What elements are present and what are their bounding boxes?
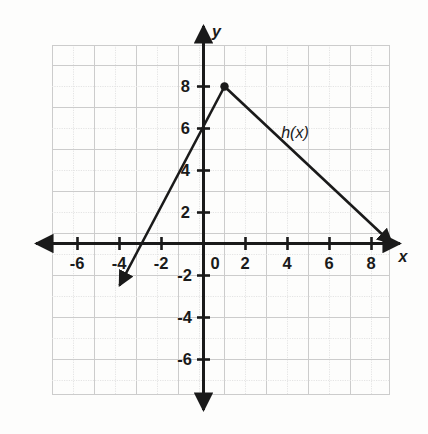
y-tick-label-6: 6 [181, 119, 190, 137]
x-axis-name: x [398, 248, 409, 265]
x-tick-label-8: 8 [366, 254, 375, 272]
curve-label-hx: h(x) [281, 124, 309, 141]
vertex-point-marker [220, 82, 228, 90]
y-axis [197, 26, 210, 410]
x-tick-label-6: 6 [324, 254, 333, 272]
x-tick-label-2: 2 [240, 254, 249, 272]
graph-figure: -6 -4 -2 0 2 4 6 8 8 6 4 2 -2 -4 -6 y x … [0, 0, 428, 434]
x-tick-label-4: 4 [282, 254, 292, 272]
x-tick-label--4: -4 [112, 254, 127, 272]
y-tick-label--4: -4 [177, 308, 192, 326]
x-tick-label--2: -2 [154, 254, 169, 272]
grid-lines [52, 45, 390, 395]
y-tick-label-2: 2 [181, 203, 190, 221]
x-tick-label--6: -6 [70, 254, 85, 272]
x-axis [36, 237, 400, 250]
x-tick-label-0: 0 [210, 254, 219, 272]
y-tick-label--2: -2 [177, 266, 192, 284]
coordinate-plane: -6 -4 -2 0 2 4 6 8 8 6 4 2 -2 -4 -6 y x … [0, 0, 428, 434]
y-tick-label-8: 8 [181, 77, 190, 95]
y-axis-name: y [211, 23, 222, 40]
y-tick-label--6: -6 [177, 350, 192, 368]
